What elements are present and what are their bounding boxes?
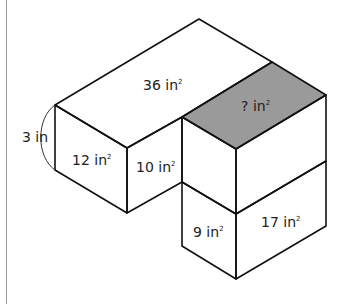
label-12: 12 in2 bbox=[72, 152, 112, 168]
height-label: 3 in bbox=[22, 129, 48, 145]
label-9: 9 in2 bbox=[193, 224, 224, 240]
label-17: 17 in2 bbox=[261, 214, 301, 230]
label-36: 36 in2 bbox=[143, 77, 183, 93]
prism-diagram: 3 in 36 in2 ? in2 12 in2 10 in2 9 in2 17… bbox=[0, 0, 345, 304]
label-10: 10 in2 bbox=[136, 159, 176, 175]
